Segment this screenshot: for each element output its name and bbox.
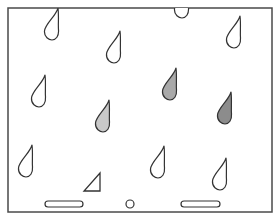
- raindrop: [174, 0, 188, 18]
- paddle-left[interactable]: [45, 201, 83, 207]
- ball: [126, 200, 134, 208]
- paddle-right[interactable]: [181, 201, 220, 207]
- game-scene: [0, 0, 279, 220]
- game-canvas[interactable]: [0, 0, 279, 220]
